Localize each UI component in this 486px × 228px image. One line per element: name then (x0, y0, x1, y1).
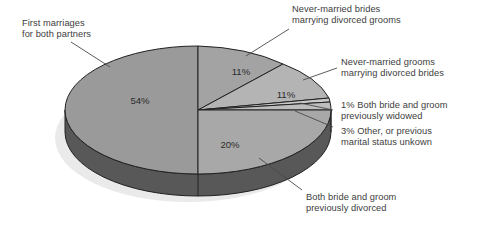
leader-grooms-divorced-brides (303, 68, 337, 80)
label-other-unknown-line2: marital status unkown (341, 137, 432, 147)
label-first-marriages-line1: First marriages (22, 18, 85, 28)
label-brides-divorced-grooms-line1: Never-married brides (292, 4, 380, 14)
leader-first-marriages (71, 42, 110, 67)
label-first-marriages: First marriagesfor both partners (22, 18, 91, 41)
slice-value-grooms-divorced-brides: 11% (277, 89, 296, 100)
label-grooms-divorced-brides-line2: marrying divorced brides (341, 68, 444, 78)
label-both-widowed-line1: 1% Both bride and groom (341, 100, 448, 110)
pie-top-face (65, 46, 331, 174)
label-other-unknown: 3% Other, or previousmarital status unko… (341, 126, 432, 149)
label-both-divorced-line1: Both bride and groom (306, 192, 396, 202)
slice-value-brides-divorced-grooms: 11% (232, 66, 251, 77)
leader-brides-divorced-grooms (246, 29, 289, 56)
label-brides-divorced-grooms: Never-married bridesmarrying divorced gr… (292, 4, 401, 27)
label-both-widowed: 1% Both bride and groompreviously widowe… (341, 100, 448, 123)
label-both-divorced: Both bride and groompreviously divorced (306, 192, 396, 215)
slice-value-both-divorced: 20% (220, 139, 240, 150)
label-both-divorced-line2: previously divorced (306, 203, 387, 213)
pie-chart-figure: 54% 11% 11% 20% First marriagesfor both … (0, 0, 486, 228)
label-other-unknown-line1: 3% Other, or previous (341, 126, 432, 136)
label-brides-divorced-grooms-line2: marrying divorced grooms (292, 15, 401, 25)
slice-value-first-marriages: 54% (130, 95, 150, 106)
label-both-widowed-line2: previously widowed (341, 111, 423, 121)
label-first-marriages-line2: for both partners (22, 29, 91, 39)
label-grooms-divorced-brides: Never-married groomsmarrying divorced br… (341, 57, 444, 80)
label-grooms-divorced-brides-line1: Never-married grooms (341, 57, 435, 67)
